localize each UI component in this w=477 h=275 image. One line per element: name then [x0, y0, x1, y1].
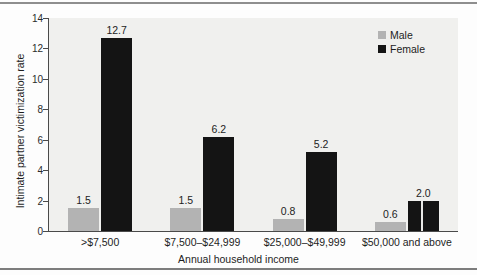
bar-value-label: 6.2 [199, 123, 239, 135]
scan-artifact-line [421, 201, 423, 231]
bar-male-group-3 [273, 219, 304, 231]
bar-female-group-2 [203, 137, 234, 231]
bar-value-label: 1.5 [64, 194, 104, 206]
y-axis-tick [43, 18, 49, 19]
bar-value-label: 1.5 [166, 194, 206, 206]
bar-male-group-4 [375, 222, 406, 231]
legend-item-female: Female [378, 43, 425, 55]
bar-value-label: 0.8 [268, 205, 308, 217]
figure-root: 02468101214 Intimate partner victimizati… [0, 0, 477, 275]
x-axis-title: Annual household income [0, 253, 477, 265]
legend-label: Male [390, 29, 413, 41]
x-axis-line [48, 231, 458, 232]
bar-value-label: 0.6 [370, 208, 410, 220]
bar-value-label: 12.7 [97, 24, 137, 36]
figure-bottom-rule [0, 268, 477, 270]
bar-value-label: 2.0 [403, 187, 443, 199]
legend-swatch-male [378, 31, 386, 39]
y-axis-tick [43, 231, 49, 232]
y-axis-tick [43, 79, 49, 80]
legend: MaleFemale [378, 29, 425, 57]
x-axis-category-label: $50,000 and above [347, 236, 467, 248]
bar-female-group-3 [306, 152, 337, 231]
figure-top-rule [0, 2, 477, 4]
y-axis-title: Intimate partner victimization rate [14, 23, 26, 239]
y-axis-tick [43, 140, 49, 141]
bar-value-label: 5.2 [301, 138, 341, 150]
y-axis-tick [43, 48, 49, 49]
legend-swatch-female [378, 45, 386, 53]
bar-male-group-1 [68, 208, 99, 231]
bar-male-group-2 [170, 208, 201, 231]
y-axis-tick [43, 170, 49, 171]
legend-item-male: Male [378, 29, 425, 41]
bar-female-group-4 [408, 201, 439, 231]
legend-label: Female [390, 43, 425, 55]
y-axis-tick [43, 201, 49, 202]
y-axis-tick [43, 109, 49, 110]
bar-female-group-1 [101, 38, 132, 231]
y-axis-tick-label: 14 [3, 13, 43, 24]
